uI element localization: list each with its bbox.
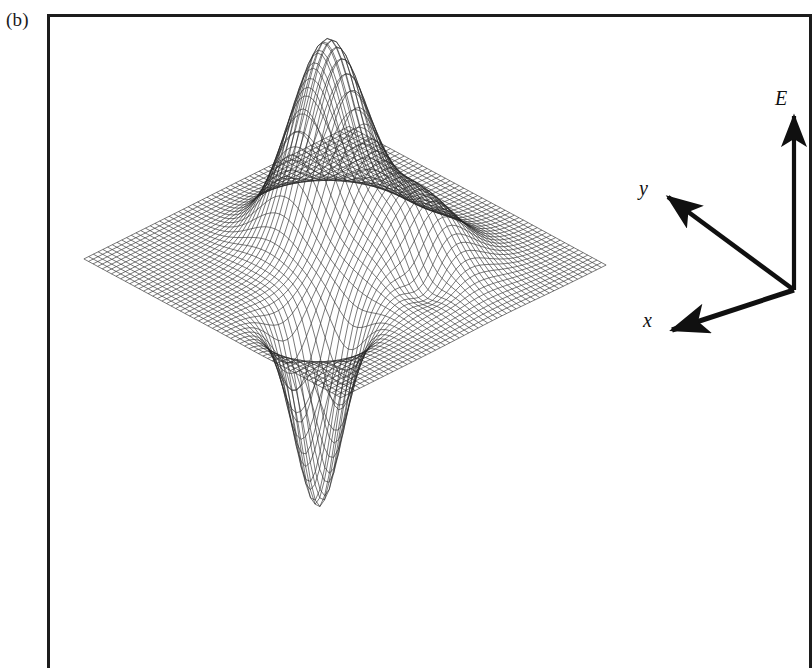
arrow-downleft-icon — [672, 290, 794, 330]
axis-arrows — [668, 116, 794, 330]
axis-label-x: x — [643, 310, 652, 330]
figure-panel: (b) E y x — [0, 0, 812, 668]
arrow-upleft-icon — [668, 197, 794, 290]
surface-plot — [0, 0, 812, 668]
axis-label-y: y — [639, 178, 648, 198]
axis-label-e: E — [775, 88, 787, 108]
wireframe-mesh — [84, 38, 606, 506]
